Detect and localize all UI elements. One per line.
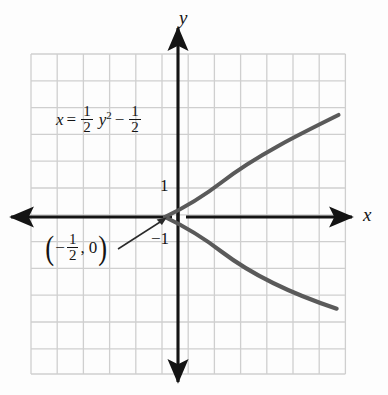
- grid-lines: [31, 54, 345, 374]
- x-axis-label: x: [363, 205, 371, 224]
- equation-equals-sign: =: [67, 111, 77, 128]
- vertex-point-label: ( − 1 2 , 0 ): [44, 232, 109, 264]
- annotation-x-fraction: 1 2: [67, 232, 79, 264]
- annotation-x-denominator: 2: [67, 247, 79, 263]
- annotation-minus-sign: −: [55, 239, 65, 256]
- y-axis-label: y: [179, 8, 187, 27]
- equation-constant-denominator: 2: [129, 119, 141, 135]
- equation-variable: y: [99, 111, 107, 128]
- tick-label-positive-one: 1: [160, 177, 169, 194]
- equation-coefficient-fraction: 1 2: [81, 104, 93, 136]
- tick-label-negative-one: −1: [151, 230, 169, 247]
- annotation-open-paren: (: [45, 237, 54, 258]
- annotation-comma: ,: [80, 239, 84, 256]
- equation-constant-fraction: 1 2: [129, 104, 141, 136]
- equation-minus-sign: −: [115, 111, 125, 128]
- annotation-x-numerator: 1: [67, 232, 79, 247]
- equation-coefficient-denominator: 2: [81, 119, 93, 135]
- annotation-close-paren: ): [98, 237, 107, 258]
- equation-constant-numerator: 1: [129, 104, 141, 119]
- annotation-y-value: 0: [89, 239, 98, 256]
- parabola-curve: [165, 115, 339, 309]
- coordinate-plane: [0, 0, 388, 395]
- equation-coefficient-numerator: 1: [81, 104, 93, 119]
- equation-lhs: x: [56, 111, 64, 128]
- graph-figure: y x 1 −1 x = 1 2 y 2 − 1 2 ( − 1 2 , 0 ): [0, 0, 388, 395]
- equation-label: x = 1 2 y 2 − 1 2: [56, 104, 143, 136]
